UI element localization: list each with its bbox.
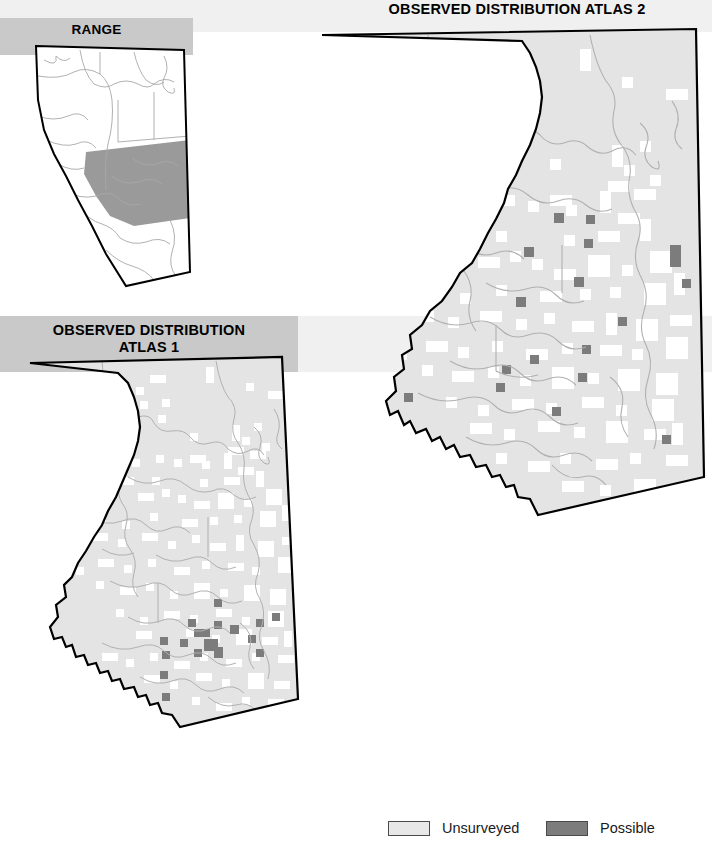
legend-label-unsurveyed: Unsurveyed: [442, 820, 519, 836]
legend-swatch-possible: [546, 821, 588, 836]
atlas2-map: [300, 25, 712, 785]
legend-item-unsurveyed: Unsurveyed: [388, 820, 519, 836]
atlas1-map: [10, 355, 310, 844]
atlas1-title-line-1: OBSERVED DISTRIBUTION: [0, 322, 298, 339]
atlas2-province-fill: [322, 29, 704, 515]
range-map-svg: [14, 40, 200, 290]
map-legend: Unsurveyed Possible: [388, 820, 712, 844]
legend-swatch-unsurveyed: [388, 821, 430, 836]
atlas1-title-line-2: ATLAS 1: [0, 339, 298, 356]
atlas1-map-svg: [10, 355, 310, 844]
atlas1-panel-title: OBSERVED DISTRIBUTION ATLAS 1: [0, 322, 298, 356]
legend-label-possible: Possible: [600, 820, 655, 836]
atlas2-panel-title: OBSERVED DISTRIBUTION ATLAS 2: [322, 1, 712, 18]
legend-item-possible: Possible: [546, 820, 655, 836]
atlas2-map-svg: [300, 25, 712, 785]
range-map: [14, 40, 200, 290]
range-panel-title: RANGE: [0, 22, 193, 38]
